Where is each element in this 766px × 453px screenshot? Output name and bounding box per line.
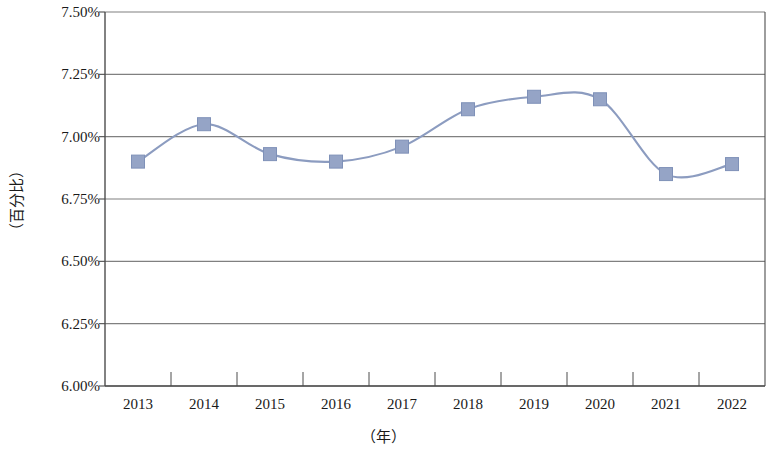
data-point-marker [528,90,541,103]
data-point-marker [594,93,607,106]
data-point-marker [726,158,739,171]
data-point-marker [330,155,343,168]
x-axis-tick-label: 2013 [123,396,153,413]
x-axis-title-label: （年） [361,429,406,445]
x-axis-tick-label: 2016 [321,396,351,413]
x-axis-ticks [171,372,699,386]
plot-area [0,0,766,453]
x-axis-tick-label: 2017 [387,396,417,413]
line-chart: （百分比） 7.50%7.25%7.00%6.75%6.50%6.25%6.00… [0,0,766,453]
series-line [138,92,732,177]
data-point-marker [264,148,277,161]
gridlines [105,12,765,386]
x-axis-tick-label: 2020 [585,396,615,413]
x-axis-tick-label: 2019 [519,396,549,413]
y-axis-ticks [99,12,105,386]
x-axis-tick-label: 2022 [717,396,747,413]
x-axis-title: （年） [0,425,766,446]
x-axis-tick-label: 2018 [453,396,483,413]
data-point-marker [462,103,475,116]
x-axis-tick-label: 2021 [651,396,681,413]
x-axis-tick-label: 2015 [255,396,285,413]
data-point-marker [396,140,409,153]
series-markers [132,90,739,180]
data-point-marker [660,168,673,181]
data-point-marker [132,155,145,168]
x-axis-tick-label: 2014 [189,396,219,413]
data-point-marker [198,118,211,131]
